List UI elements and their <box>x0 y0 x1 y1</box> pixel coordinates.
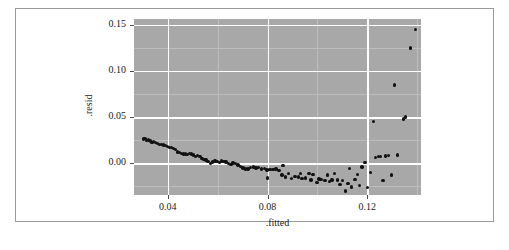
gridline-minor-horizontal <box>134 48 421 49</box>
data-point <box>360 165 363 168</box>
data-point <box>281 164 284 167</box>
data-point <box>350 185 353 188</box>
data-point <box>341 179 344 182</box>
gridline-major-vertical <box>168 19 169 195</box>
y-axis-title: .resid <box>83 76 94 136</box>
data-point <box>409 46 412 49</box>
data-point <box>363 161 366 164</box>
gridline-minor-horizontal <box>134 186 421 187</box>
data-point <box>333 172 336 175</box>
data-point <box>277 169 280 172</box>
y-tick-label: 0.10 <box>86 64 126 75</box>
y-tick-label: 0.15 <box>86 18 126 29</box>
data-point <box>404 115 407 118</box>
y-tick-mark <box>130 25 134 26</box>
data-point <box>369 171 372 174</box>
data-point <box>336 178 339 181</box>
y-tick-label: 0.00 <box>86 156 126 167</box>
gridline-minor-horizontal <box>134 94 421 95</box>
data-point <box>326 173 329 176</box>
x-tick-mark <box>168 195 169 199</box>
data-point <box>344 189 347 192</box>
data-point <box>299 172 302 175</box>
gridline-minor-vertical <box>218 19 219 195</box>
data-point <box>266 176 269 179</box>
data-point <box>323 179 326 182</box>
gridline-major-horizontal <box>134 117 421 118</box>
data-point <box>330 178 333 181</box>
gridline-major-horizontal <box>134 163 421 164</box>
data-point <box>284 175 287 178</box>
gridline-major-horizontal <box>134 25 421 26</box>
data-point <box>366 186 369 189</box>
x-axis-title: .fitted <box>238 217 318 228</box>
x-tick-label: 0.08 <box>243 201 293 212</box>
x-tick-label: 0.12 <box>342 201 392 212</box>
gridline-minor-horizontal <box>134 140 421 141</box>
x-tick-mark <box>268 195 269 199</box>
gridline-minor-vertical <box>317 19 318 195</box>
data-point <box>346 182 349 185</box>
scatter-plot: 0.040.080.120.000.050.100.15 <box>0 0 509 250</box>
data-point <box>304 176 307 179</box>
x-tick-mark <box>367 195 368 199</box>
data-point <box>338 183 341 186</box>
x-tick-label: 0.04 <box>143 201 193 212</box>
y-tick-mark <box>130 163 134 164</box>
data-point <box>309 178 312 181</box>
data-point <box>311 173 314 176</box>
gridline-major-horizontal <box>134 71 421 72</box>
figure-container: 0.040.080.120.000.050.100.15 .fitted .re… <box>0 0 509 250</box>
gridline-major-vertical <box>367 19 368 195</box>
data-point <box>381 179 384 182</box>
y-tick-mark <box>130 117 134 118</box>
y-tick-mark <box>130 71 134 72</box>
gridline-minor-vertical <box>417 19 418 195</box>
